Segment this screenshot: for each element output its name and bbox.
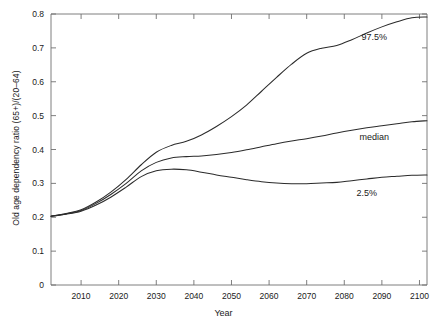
y-tick-label: 0.4 [32,145,44,155]
axis-frame [51,14,427,285]
series-annotations: 97.5%median2.5% [357,32,390,198]
data-curves [51,17,427,216]
annotation-975: 97.5% [362,32,388,42]
y-tick-label: 0.6 [32,77,44,87]
x-tick-label: 2040 [184,291,203,301]
x-tick-label: 2010 [72,291,91,301]
y-tick-label: 0.3 [32,178,44,188]
x-tick-label: 2030 [147,291,166,301]
x-tick-label: 2050 [222,291,241,301]
chart-figure: Old age dependency ratio (65+)/(20–64) Y… [0,0,447,331]
x-axis-ticks: 2010202020302040205020602070208020902100 [72,14,430,301]
y-tick-label: 0.2 [32,212,44,222]
annotation-25: 2.5% [357,188,378,198]
x-tick-label: 2060 [260,291,279,301]
x-tick-label: 2080 [335,291,354,301]
x-tick-label: 2090 [372,291,391,301]
y-tick-label: 0.7 [32,43,44,53]
plot-area: 00.10.20.30.40.50.60.70.8 20102020203020… [0,0,447,331]
y-tick-label: 0.5 [32,111,44,121]
annotation-median: median [360,132,390,142]
x-tick-label: 2020 [109,291,128,301]
y-tick-label: 0.8 [32,9,44,19]
y-tick-label: 0.1 [32,246,44,256]
y-tick-label: 0 [39,280,44,290]
x-tick-label: 2100 [410,291,429,301]
curve-975 [51,17,427,216]
y-axis-ticks: 00.10.20.30.40.50.60.70.8 [32,9,427,290]
x-tick-label: 2070 [297,291,316,301]
